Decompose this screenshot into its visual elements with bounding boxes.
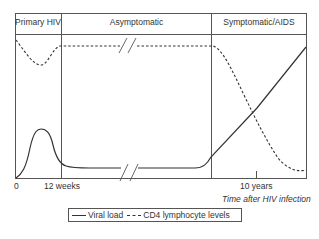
chart-frame (16, 14, 307, 179)
tick-label-12-weeks: 12 weeks (44, 181, 80, 191)
x-axis-label: Time after HIV infection (222, 194, 311, 204)
solid-line-swatch-icon (72, 215, 86, 216)
legend-label-cd4: CD4 lymphocyte levels (143, 210, 229, 220)
legend-item-viral-load: Viral load (72, 210, 123, 220)
tick-label-10-years: 10 years (240, 181, 273, 191)
legend-label-viral-load: Viral load (88, 210, 123, 220)
axis-break-icon (128, 38, 136, 53)
dashed-line-swatch-icon (127, 215, 141, 216)
phase-label-symptomatic: Symptomatic/AIDS (212, 17, 306, 27)
phase-label-asymptomatic: Asymptomatic (62, 17, 211, 27)
viral-load-line (16, 47, 306, 178)
axis-break-icon (119, 38, 127, 53)
cd4-line (16, 40, 306, 171)
legend-item-cd4: CD4 lymphocyte levels (127, 210, 229, 220)
legend: Viral load CD4 lymphocyte levels (68, 208, 242, 222)
tick-label-zero: 0 (14, 181, 19, 191)
phase-label-primary: Primary HIV (15, 17, 61, 27)
